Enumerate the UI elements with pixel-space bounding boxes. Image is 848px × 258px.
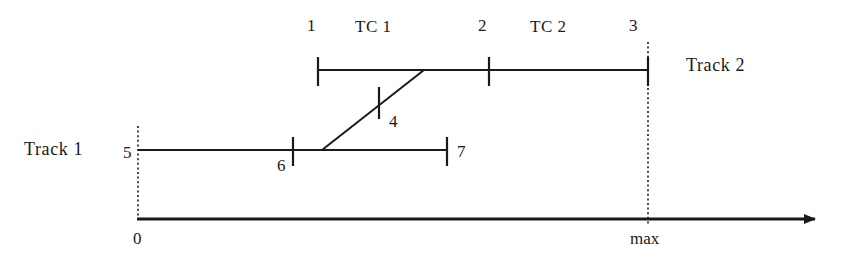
track1-mid-label: 6 [277, 157, 286, 174]
track1-name-label: Track 1 [24, 140, 83, 158]
axis-max-label: max [630, 230, 659, 247]
transition-line [322, 70, 424, 150]
track2-segment-label-tc1: TC 1 [355, 18, 391, 35]
track2-end-label: 3 [629, 17, 638, 34]
axis-origin-label: 0 [133, 230, 142, 247]
track2-segment-label-tc2: TC 2 [530, 18, 566, 35]
track1-start-label: 5 [123, 144, 132, 161]
transition-label: 4 [389, 113, 398, 130]
track2-mid-label: 2 [478, 17, 487, 34]
track1-end-label: 7 [457, 143, 466, 160]
diagram-vector-layer [0, 0, 848, 258]
track2-start-label: 1 [307, 17, 316, 34]
track2-name-label: Track 2 [686, 56, 745, 74]
diagram-canvas: 1 TC 1 2 TC 2 3 Track 2 Track 1 5 6 7 4 … [0, 0, 848, 258]
